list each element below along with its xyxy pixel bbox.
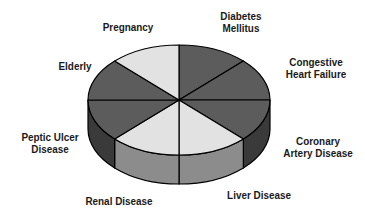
label-congestive-heart-failure: Congestive Heart Failure xyxy=(273,56,359,80)
pie-chart-3d xyxy=(0,0,365,221)
label-pregnancy: Pregnancy xyxy=(92,21,164,33)
label-liver-disease: Liver Disease xyxy=(219,189,300,201)
label-elderly: Elderly xyxy=(48,60,102,72)
pie-top-slices xyxy=(88,45,270,155)
label-renal-disease: Renal Disease xyxy=(79,195,160,207)
label-peptic-ulcer-disease: Peptic Ulcer Disease xyxy=(14,131,86,155)
label-coronary-artery-disease: Coronary Artery Disease xyxy=(277,135,360,159)
label-diabetes-mellitus: Diabetes Mellitus xyxy=(210,10,273,34)
